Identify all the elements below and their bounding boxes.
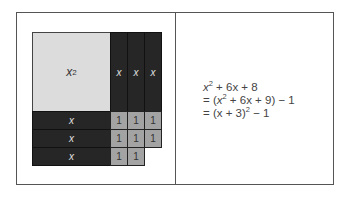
equation-line-3: = (x + 3)2 − 1 [203,107,295,120]
unit-tile: 1 [127,147,145,166]
tile-label: 1 [150,115,156,126]
tile-label: x [69,133,74,144]
unit-tile: 1 [110,111,128,130]
expr: − 1 [250,107,270,119]
tile-label: 1 [150,133,156,144]
x-row-tile: x [32,111,111,130]
tile-label: x [117,67,122,78]
tile-label: x [134,67,139,78]
x-column-tile: x [127,32,145,112]
unit-tile: 1 [110,129,128,148]
tile-label: 1 [133,115,139,126]
x-column-tile: x [110,32,128,112]
x-row-tile: x [32,147,111,166]
equation-block: x2 + 6x + 8 = (x2 + 6x + 9) − 1 = (x + 3… [203,81,295,120]
panel-divider [175,12,176,185]
unit-tile: 1 [127,111,145,130]
tile-label: 1 [116,151,122,162]
x-row-tile: x [32,129,111,148]
tile-label: x [69,151,74,162]
unit-tile: 1 [110,147,128,166]
tile-label: x [151,67,156,78]
expr: = (x + 3) [203,107,246,119]
tile-label: 1 [133,151,139,162]
unit-tile: 1 [144,111,162,130]
exponent: 2 [72,68,76,77]
tile-label: x [69,115,74,126]
unit-tile: 1 [127,129,145,148]
x-squared-tile: x2 [32,32,111,112]
expr: + 6x + 9) − 1 [227,94,295,106]
x-column-tile: x [144,32,162,112]
expr: = ( [203,94,217,106]
expr: + 6x + 8 [213,81,258,93]
tile-label: 1 [116,115,122,126]
equation-line-1: x2 + 6x + 8 [203,81,295,94]
tile-label: 1 [116,133,122,144]
unit-tile: 1 [144,129,162,148]
tile-label: 1 [133,133,139,144]
